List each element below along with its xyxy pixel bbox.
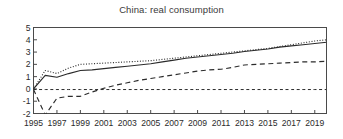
x-tick-label: 2003 bbox=[118, 118, 137, 128]
y-tick-label: 3 bbox=[26, 47, 31, 57]
chart-plot-area: 543210-1-2 19951997199920012003200520072… bbox=[0, 0, 343, 139]
data-series-group bbox=[34, 40, 327, 115]
y-tick-label: -1 bbox=[23, 96, 31, 106]
x-tick-label: 2013 bbox=[235, 118, 254, 128]
series-dashed-line bbox=[34, 61, 327, 115]
x-tick-label: 2001 bbox=[94, 118, 113, 128]
y-tick-label: 5 bbox=[26, 23, 31, 33]
axes-frame bbox=[34, 28, 327, 114]
x-axis-tick-labels: 1995199719992001200320052007200920112013… bbox=[24, 118, 325, 128]
x-tick-label: 2005 bbox=[141, 118, 160, 128]
x-tick-label: 1997 bbox=[47, 118, 66, 128]
x-tick-label: 2007 bbox=[165, 118, 184, 128]
x-tick-label: 2019 bbox=[305, 118, 324, 128]
y-axis-tick-labels: 543210-1-2 bbox=[23, 23, 31, 119]
chart-figure: China: real consumption 543210-1-2 19951… bbox=[0, 0, 343, 139]
x-tick-label: 1999 bbox=[71, 118, 90, 128]
y-tick-label: 0 bbox=[26, 84, 31, 94]
x-tick-label: 2009 bbox=[188, 118, 207, 128]
x-tick-label: 2011 bbox=[212, 118, 231, 128]
y-tick-label: 2 bbox=[26, 59, 31, 69]
y-tick-label: 4 bbox=[26, 35, 31, 45]
x-tick-label: 2015 bbox=[258, 118, 277, 128]
y-axis-ticks bbox=[34, 28, 38, 114]
y-tick-label: 1 bbox=[26, 72, 31, 82]
x-tick-label: 1995 bbox=[24, 118, 43, 128]
series-solid-line bbox=[34, 42, 327, 89]
x-axis-ticks bbox=[34, 110, 315, 114]
x-tick-label: 2017 bbox=[282, 118, 301, 128]
